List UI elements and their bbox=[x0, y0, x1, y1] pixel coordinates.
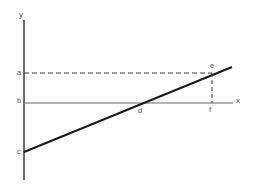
point-label-a: a bbox=[17, 69, 21, 77]
point-label-c: c bbox=[17, 148, 21, 156]
point-label-e: e bbox=[210, 62, 214, 70]
diagram-canvas bbox=[0, 0, 254, 187]
point-label-b: b bbox=[17, 97, 21, 105]
solid-diagonal-line bbox=[24, 67, 232, 152]
coordinate-diagram: y x a b c d e f bbox=[0, 0, 254, 187]
point-label-f: f bbox=[209, 106, 211, 114]
x-axis-label: x bbox=[236, 97, 240, 105]
y-axis-label: y bbox=[19, 11, 23, 19]
point-label-d: d bbox=[138, 107, 142, 115]
